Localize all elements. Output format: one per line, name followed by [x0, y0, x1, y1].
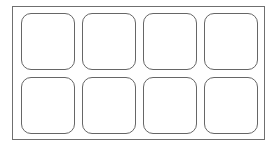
tile-r2-c2[interactable]	[82, 77, 136, 134]
tile-r2-c4[interactable]	[204, 77, 258, 134]
tile-r2-c3[interactable]	[143, 77, 197, 134]
tile-r1-c4[interactable]	[204, 13, 258, 70]
tile-r2-c1[interactable]	[21, 77, 75, 134]
tile-r1-c1[interactable]	[21, 13, 75, 70]
tile-r1-c2[interactable]	[82, 13, 136, 70]
grid-frame	[12, 6, 265, 140]
tile-r1-c3[interactable]	[143, 13, 197, 70]
tile-grid	[21, 13, 258, 134]
